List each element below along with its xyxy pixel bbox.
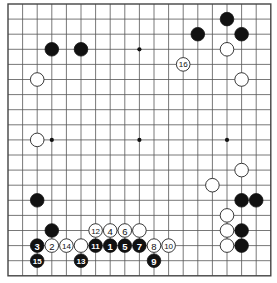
move-number-label: 3 (35, 241, 40, 252)
white-stone (220, 43, 234, 57)
black-stone (220, 12, 234, 26)
black-stone (235, 224, 249, 238)
move-number-label: 12 (91, 227, 100, 236)
move-2-white-stone: 2 (45, 239, 59, 253)
stones-layer (30, 12, 263, 252)
go-board: 12345678910111213141516 (0, 0, 277, 283)
white-stone (206, 178, 220, 192)
black-stone (74, 43, 88, 57)
move-number-label: 7 (137, 241, 142, 252)
move-number-label: 13 (77, 257, 86, 266)
black-stone (235, 239, 249, 253)
move-13-black-stone: 13 (74, 254, 88, 268)
move-number-label: 11 (91, 242, 100, 251)
white-stone (235, 73, 249, 87)
black-stone (45, 43, 59, 57)
white-stone (30, 133, 44, 147)
black-stone (45, 224, 59, 238)
move-8-white-stone: 8 (147, 239, 161, 253)
move-number-label: 16 (179, 60, 188, 69)
move-number-label: 5 (122, 241, 128, 252)
move-7-black-stone: 7 (133, 239, 147, 253)
move-16-white-stone: 16 (176, 58, 190, 72)
move-number-label: 9 (151, 256, 156, 267)
move-12-white-stone: 12 (89, 224, 103, 238)
move-number-label: 2 (49, 241, 54, 252)
white-stone (220, 239, 234, 253)
move-3-black-stone: 3 (30, 239, 44, 253)
white-stone (220, 224, 234, 238)
black-stone (30, 194, 44, 208)
move-1-black-stone: 1 (103, 239, 117, 253)
move-number-label: 15 (33, 257, 42, 266)
white-stone (133, 224, 147, 238)
black-stone (235, 194, 249, 208)
star-point (137, 47, 141, 51)
star-point (225, 138, 229, 142)
star-point (137, 138, 141, 142)
move-number-label: 8 (151, 241, 156, 252)
white-stone (30, 73, 44, 87)
move-11-black-stone: 11 (89, 239, 103, 253)
move-number-label: 1 (108, 241, 114, 252)
move-9-black-stone: 9 (147, 254, 161, 268)
black-stone (235, 27, 249, 41)
move-10-white-stone: 10 (162, 239, 176, 253)
move-4-white-stone: 4 (103, 224, 117, 238)
white-stone (74, 239, 88, 253)
star-point (50, 138, 54, 142)
move-5-black-stone: 5 (118, 239, 132, 253)
move-number-label: 4 (108, 226, 113, 237)
move-14-white-stone: 14 (60, 239, 74, 253)
white-stone (235, 163, 249, 177)
move-number-label: 10 (164, 242, 173, 251)
black-stone (249, 194, 263, 208)
black-stone (191, 27, 205, 41)
move-number-label: 14 (62, 242, 71, 251)
move-15-black-stone: 15 (30, 254, 44, 268)
white-stone (220, 209, 234, 223)
move-6-white-stone: 6 (118, 224, 132, 238)
move-number-label: 6 (122, 226, 127, 237)
